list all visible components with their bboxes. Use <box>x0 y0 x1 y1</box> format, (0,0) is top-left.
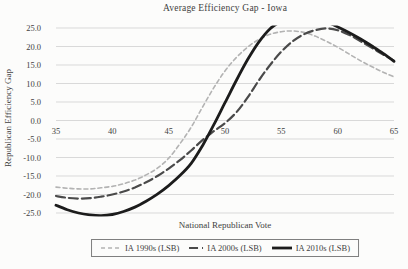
plot-area: 25.020.015.010.05.00.0-5.0-10.0-15.0-20.… <box>0 0 408 235</box>
y-tick-label: 20.0 <box>26 42 41 52</box>
x-tick-label: 50 <box>221 126 230 136</box>
series-line-0 <box>56 31 394 189</box>
x-tick-label: 55 <box>277 126 286 136</box>
x-tick-label: 60 <box>333 126 342 136</box>
y-tick-label: -10.0 <box>23 153 41 163</box>
legend-label: IA 2000s (LSB) <box>207 243 261 253</box>
y-tick-label: 0.0 <box>30 116 41 126</box>
x-tick-label: 45 <box>164 126 173 136</box>
legend-label: IA 1990s (LSB) <box>125 243 179 253</box>
y-tick-label: 10.0 <box>26 79 41 89</box>
legend-line-sample <box>100 244 122 252</box>
legend-item-0: IA 1990s (LSB) <box>100 243 179 253</box>
y-tick-label: -5.0 <box>28 134 41 144</box>
legend-line-sample <box>271 244 293 252</box>
y-tick-label: -25.0 <box>23 208 41 218</box>
y-tick-label: 5.0 <box>30 97 41 107</box>
y-tick-label: 15.0 <box>26 60 41 70</box>
x-tick-label: 65 <box>390 126 399 136</box>
y-tick-label: 25.0 <box>26 23 41 33</box>
x-tick-label: 35 <box>52 126 61 136</box>
legend-line-sample <box>188 244 204 252</box>
y-tick-label: -20.0 <box>23 190 41 200</box>
x-tick-label: 40 <box>108 126 117 136</box>
x-axis-title: National Republican Vote <box>56 220 394 230</box>
legend: IA 1990s (LSB)IA 2000s (LSB)IA 2010s (LS… <box>91 239 359 257</box>
legend-label: IA 2010s (LSB) <box>296 243 350 253</box>
legend-item-1: IA 2000s (LSB) <box>188 243 261 253</box>
series-line-1 <box>56 28 394 198</box>
y-tick-label: -15.0 <box>23 171 41 181</box>
legend-item-2: IA 2010s (LSB) <box>271 243 350 253</box>
